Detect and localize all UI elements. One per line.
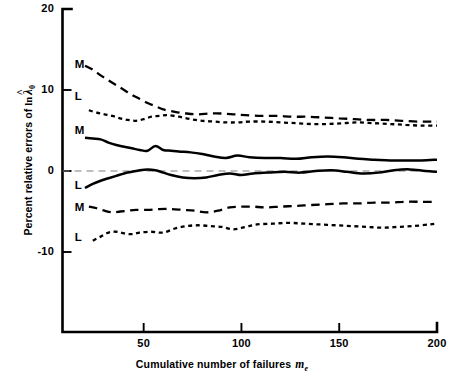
series-label-l-lower: L [75,232,82,244]
y-tick-label: 20 [14,2,54,14]
x-axis-symbol-subscript: e [304,364,308,373]
x-tick-label: 50 [119,337,169,349]
y-axis-title-text: Percent relative errors of [22,109,34,236]
x-axis-title-symbol: me [291,358,308,370]
series-curve-l-lower [93,223,437,241]
hat-accent-icon: ^ [14,88,26,97]
x-axis-title: Cumulative number of failuresme [0,358,444,373]
series-curve-l-upper [89,110,437,125]
series-curve-m-upper [85,66,437,122]
y-axis-ln-label: ln [23,97,34,109]
lambda-subscript: 0 [28,85,37,89]
data-curves-group [85,66,437,241]
x-tick-label: 150 [314,337,364,349]
x-axis-title-text: Cumulative number of failures [136,358,291,370]
series-label-l-mid: L [75,180,82,192]
y-axis-title: Percent relative errors ofln^λ0 [21,45,38,275]
series-label-m-lower: M [75,202,85,214]
x-tick-label: 100 [216,337,266,349]
series-label-m-mid: M [75,125,85,137]
y-axis-lambda-hat-symbol: ^λ0 [21,85,35,97]
series-curve-m-mid [85,138,437,161]
series-curve-l-mid [85,169,437,188]
series-label-m-upper: M [75,59,85,71]
series-curve-m-lower [89,202,437,213]
series-label-l-upper: L [75,91,82,103]
x-tick-label: 200 [412,337,451,349]
